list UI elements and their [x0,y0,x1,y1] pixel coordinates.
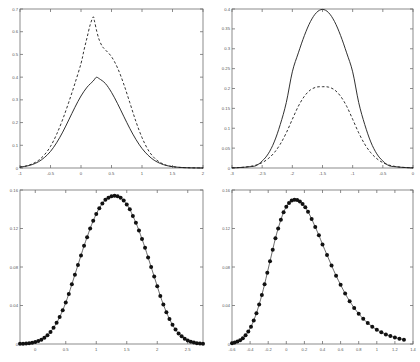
data-point [366,321,370,325]
data-point [397,337,401,341]
x-tick-label: 1.5 [124,347,130,352]
x-tick-label: -0.5 [379,171,387,176]
data-point [348,299,352,303]
y-tick-label: 0.15 [222,106,231,111]
data-point [152,275,156,279]
x-tick-label: 0.2 [302,347,308,352]
data-point [330,264,334,268]
y-tick-label: 0.1 [12,143,18,148]
x-tick-label: 0 [412,171,415,176]
data-point [167,317,171,321]
x-tick-label: -2 [290,171,294,176]
x-tick-label: -0.6 [229,347,237,352]
data-point [125,202,129,206]
x-tick-label: 1.5 [170,171,176,176]
data-point [97,206,101,210]
data-point [73,273,77,277]
data-point [375,328,379,332]
x-tick-label: 1.2 [392,347,398,352]
y-tick-label: 0.6 [12,29,18,34]
x-tick-label: -1.5 [319,171,327,176]
data-point [171,323,175,327]
data-point [268,259,272,263]
x-tick-label: 0.6 [338,347,344,352]
data-point [379,330,383,334]
axes-box [232,9,413,168]
data-point [79,253,83,257]
x-tick-label: 0 [285,347,288,352]
data-point [334,274,338,278]
series-line-markers [232,200,404,344]
x-tick-label: 1 [376,347,379,352]
x-tick-label: -3 [230,171,234,176]
data-point [149,265,153,269]
data-point [70,282,74,286]
data-point [158,294,162,298]
plot-panel-top-left: -1-0.500.511.5200.10.20.30.40.50.60.7 [0,0,210,181]
series-line-solid [20,77,203,168]
data-point [384,332,388,336]
x-tick-label: -0.2 [265,347,273,352]
data-point [91,219,95,223]
data-point [131,214,135,218]
y-tick-label: 0.12 [10,226,19,231]
data-point [306,210,310,214]
data-point [257,303,261,307]
y-tick-label: 0.12 [222,226,231,231]
y-tick-label: 0.16 [222,188,231,193]
data-point [49,330,53,334]
plot-panel-bottom-right: -0.6-0.4-0.200.20.40.60.811.21.400.040.0… [210,181,420,362]
plot-panel-top-right: -3-2.5-2-1.5-1-0.5000.050.10.150.20.250.… [210,0,420,181]
data-point [82,244,86,248]
data-point [161,303,165,307]
axes-box [232,190,413,344]
data-point [246,329,250,333]
data-point [244,333,248,337]
axes-box [20,190,203,344]
series-line-dashed [232,87,413,168]
data-point [88,227,92,231]
data-point [303,205,307,209]
data-point [134,221,138,225]
data-point [284,205,288,209]
series-markers-markers [230,198,406,346]
figure-canvas: -1-0.500.511.5200.10.20.30.40.50.60.7 -3… [0,0,420,362]
data-point [325,253,329,257]
plot-svg-top-left: -1-0.500.511.5200.10.20.30.40.50.60.7 [0,0,210,181]
data-point [45,333,49,337]
data-point [273,236,277,240]
x-tick-label: 0.5 [109,171,115,176]
data-point [249,325,253,329]
x-tick-label: -2.5 [259,171,267,176]
data-point [252,318,256,322]
data-point [317,233,321,237]
data-point [100,201,104,205]
y-tick-label: 0.08 [10,265,19,270]
series-markers-markers [18,194,205,346]
y-tick-label: 0 [16,166,19,171]
axes-box [20,9,203,168]
series-line-solid [232,9,413,167]
data-point [164,310,168,314]
x-tick-label: -1 [351,171,355,176]
plot-svg-top-right: -3-2.5-2-1.5-1-0.5000.050.10.150.20.250.… [210,0,420,181]
y-tick-label: 0.4 [12,75,18,80]
data-point [155,284,159,288]
data-point [282,210,286,214]
data-point [361,317,365,321]
y-tick-label: 0.4 [224,7,230,12]
data-point [76,263,80,267]
data-point [310,217,314,221]
data-point [370,325,374,329]
plot-svg-bottom-right: -0.6-0.4-0.200.20.40.60.811.21.400.040.0… [210,181,420,362]
data-point [94,212,98,216]
x-tick-label: -1 [18,171,22,176]
x-tick-label: 1 [141,171,144,176]
y-tick-label: 0 [228,166,231,171]
y-tick-label: 0.7 [12,7,18,12]
data-point [143,246,147,250]
data-point [201,342,205,346]
data-point [276,227,280,231]
data-point [313,225,317,229]
y-tick-label: 0.05 [222,146,231,151]
